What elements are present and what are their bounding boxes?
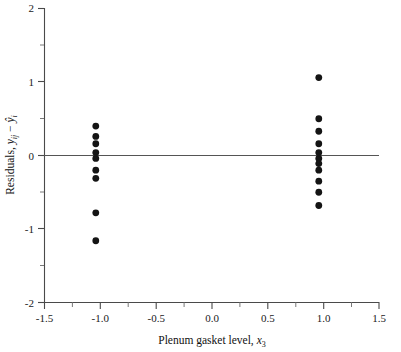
x-tick-label-1p5: 1.5 xyxy=(372,312,386,324)
y-tick-label-2: 2 xyxy=(29,2,35,14)
y-axis-label-minus: − xyxy=(4,123,16,135)
data-point xyxy=(315,140,322,147)
x-axis-label-prefix: Plenum gasket level, xyxy=(158,334,256,347)
plot-canvas: 2 1 0 -1 -2 -1.5 -1.0 -0. xyxy=(0,0,401,352)
x-tick-label-neg1p0: -1.0 xyxy=(92,312,110,324)
data-point xyxy=(92,175,99,182)
x-axis-tick-labels: -1.5 -1.0 -0.5 0.0 0.5 1.0 1.5 xyxy=(36,312,387,324)
y-axis-label-prefix: Residuals, xyxy=(4,144,17,194)
data-point xyxy=(315,167,322,174)
y-tick-label-neg1: -1 xyxy=(25,223,34,235)
y-axis-major-ticks xyxy=(38,9,44,303)
data-point xyxy=(92,237,99,244)
data-point xyxy=(92,167,99,174)
x-tick-label-0p5: 0.5 xyxy=(261,312,275,324)
x-axis-label: Plenum gasket level, x3 xyxy=(158,334,265,349)
y-axis-label: Residuals, yij − ŷi xyxy=(4,115,19,195)
data-points-layer xyxy=(92,74,322,244)
y-axis-tick-labels: 2 1 0 -1 -2 xyxy=(25,2,35,309)
data-point xyxy=(315,128,322,135)
x-tick-label-1p0: 1.0 xyxy=(317,312,331,324)
data-point xyxy=(315,189,322,196)
x-tick-label-neg1p5: -1.5 xyxy=(36,312,54,324)
y-tick-label-1: 1 xyxy=(29,76,35,88)
x-tick-label-neg0p5: -0.5 xyxy=(147,312,165,324)
residuals-scatter-figure: 2 1 0 -1 -2 -1.5 -1.0 -0. xyxy=(0,0,401,352)
data-point xyxy=(92,123,99,130)
data-point xyxy=(92,209,99,216)
data-point xyxy=(92,133,99,140)
y-axis-label-sub2: i xyxy=(10,115,19,117)
data-point xyxy=(315,178,322,185)
data-point xyxy=(92,155,99,162)
data-point xyxy=(315,115,322,122)
data-point xyxy=(315,202,322,209)
data-point xyxy=(92,149,99,156)
y-tick-label-neg2: -2 xyxy=(25,297,34,309)
data-point xyxy=(315,74,322,81)
data-point xyxy=(315,149,322,156)
data-point xyxy=(315,160,322,167)
x-tick-label-0p0: 0.0 xyxy=(205,312,219,324)
y-tick-label-0: 0 xyxy=(29,150,35,162)
data-point xyxy=(92,140,99,147)
x-axis-label-sub: 3 xyxy=(262,340,266,349)
